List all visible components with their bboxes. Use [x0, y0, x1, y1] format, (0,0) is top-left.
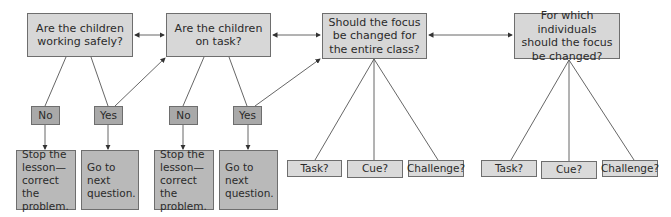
option-label: Cue?	[556, 163, 582, 177]
question-label: Should the focus be changed for the enti…	[328, 16, 420, 57]
question-label: Are the children working safely?	[36, 22, 124, 49]
question-focus-individuals: For which individuals should the focus b…	[514, 13, 620, 59]
individual-option-challenge: Challenge?	[602, 160, 658, 177]
answer-no-safely: No	[31, 106, 60, 125]
action-label: Go to next question.	[225, 161, 277, 200]
answer-yes-safely: Yes	[94, 106, 123, 125]
question-focus-entire-class: Should the focus be changed for the enti…	[322, 13, 427, 59]
class-option-task: Task?	[287, 160, 342, 177]
option-label: Challenge?	[407, 162, 465, 176]
answer-label: No	[38, 109, 52, 123]
answer-label: No	[176, 109, 190, 123]
answer-no-on-task: No	[169, 106, 198, 125]
question-label: Are the children on task?	[175, 22, 263, 49]
action-stop-lesson-2: Stop the lesson— correct the problem.	[154, 150, 214, 210]
question-on-task: Are the children on task?	[166, 13, 271, 57]
individual-option-task: Task?	[481, 160, 537, 177]
answer-label: Yes	[100, 109, 117, 123]
class-option-cue: Cue?	[347, 160, 403, 178]
option-label: Challenge?	[601, 162, 659, 176]
class-option-challenge: Challenge?	[408, 160, 464, 177]
option-label: Task?	[495, 162, 523, 176]
action-stop-lesson-1: Stop the lesson— correct the problem.	[16, 150, 76, 210]
answer-label: Yes	[239, 109, 256, 123]
question-working-safely: Are the children working safely?	[27, 13, 133, 57]
option-label: Cue?	[362, 162, 388, 176]
action-label: Stop the lesson— correct the problem.	[160, 148, 213, 213]
option-label: Task?	[300, 162, 328, 176]
individual-option-cue: Cue?	[541, 161, 597, 179]
answer-yes-on-task: Yes	[233, 106, 262, 125]
action-next-question-2: Go to next question.	[219, 150, 278, 210]
action-next-question-1: Go to next question.	[81, 150, 139, 210]
action-label: Go to next question.	[87, 161, 138, 200]
action-label: Stop the lesson— correct the problem.	[22, 148, 75, 213]
question-label: For which individuals should the focus b…	[515, 9, 619, 63]
